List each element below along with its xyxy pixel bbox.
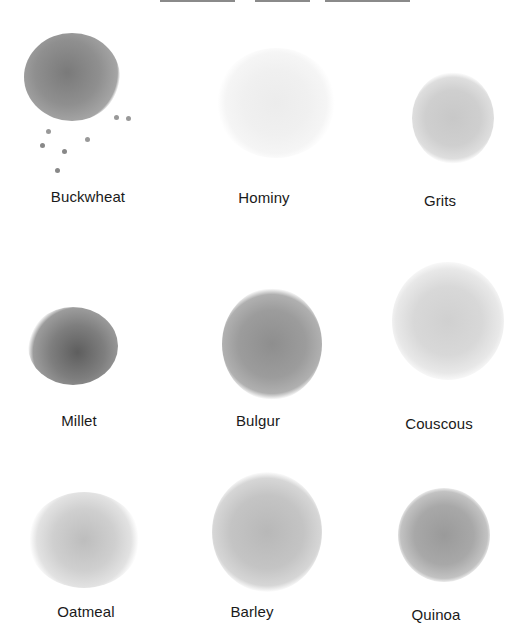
- grain-card-couscous: Couscous: [352, 210, 528, 410]
- grain-label: Buckwheat: [0, 188, 176, 205]
- grain-card-millet: Millet: [0, 210, 176, 410]
- hominy-image: [216, 48, 336, 158]
- grain-card-barley: Barley: [176, 420, 352, 630]
- grain-card-bulgur: Bulgur: [176, 210, 352, 410]
- grain-card-grits: Grits: [352, 0, 528, 210]
- grain-label: Hominy: [176, 189, 352, 206]
- grain-label: Barley: [164, 603, 340, 620]
- oatmeal-image: [28, 492, 140, 588]
- barley-image: [212, 472, 322, 592]
- buckwheat-image: [24, 33, 120, 121]
- millet-image: [28, 307, 118, 385]
- quinoa-image: [398, 488, 490, 582]
- grain-label: Oatmeal: [0, 603, 174, 620]
- grain-label: Quinoa: [348, 606, 524, 623]
- grits-image: [412, 72, 494, 164]
- grain-label: Grits: [352, 192, 528, 209]
- couscous-image: [392, 262, 504, 380]
- grain-card-hominy: Hominy: [176, 0, 352, 210]
- grain-card-quinoa: Quinoa: [352, 420, 528, 630]
- grain-card-oatmeal: Oatmeal: [0, 420, 176, 630]
- grain-card-buckwheat: Buckwheat: [0, 0, 176, 210]
- bulgur-image: [222, 288, 322, 400]
